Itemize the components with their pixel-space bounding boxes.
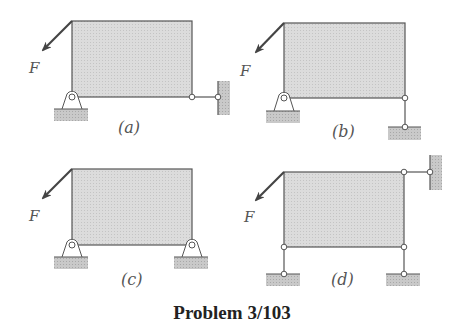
panel-a: F (a) [28, 21, 230, 137]
figure-caption: Problem 3/103 [173, 302, 290, 323]
force-label: F [239, 62, 251, 80]
force-arrow [43, 169, 72, 198]
panel-label-a: (a) [118, 118, 140, 137]
panel-d: F (d) [243, 155, 442, 289]
force-arrow [43, 21, 72, 50]
panel-c: F (c) [28, 169, 208, 289]
link-to-wall [189, 81, 230, 115]
vertical-link-right [386, 244, 420, 286]
horizontal-link-to-wall [401, 155, 442, 190]
force-arrow [256, 23, 284, 52]
panel-label-b: (b) [332, 122, 355, 141]
panel-label-d: (d) [331, 270, 354, 289]
force-label: F [28, 59, 40, 77]
frame-plate [284, 172, 404, 247]
vertical-link-to-ground [388, 95, 421, 140]
problem-figure: F (a) F [0, 0, 470, 327]
frame-plate [284, 23, 405, 98]
panel-label-c: (c) [121, 270, 142, 289]
vertical-link-left [266, 244, 300, 286]
force-label: F [28, 207, 40, 225]
force-label: F [243, 208, 255, 226]
frame-plate [72, 21, 192, 97]
force-arrow [256, 172, 284, 200]
panel-b: F (b) [239, 23, 421, 141]
frame-plate [72, 169, 192, 245]
